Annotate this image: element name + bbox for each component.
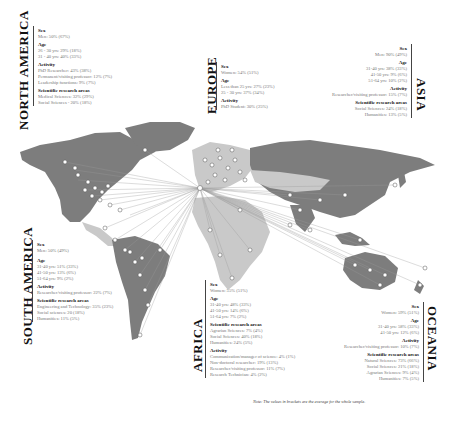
value: Humanities: 13% (5%) [296, 112, 407, 118]
value: 51-64 yrs: 9% (2%) [37, 276, 157, 282]
value: Men: 50% (67%) [38, 34, 148, 40]
value: Humanities: 11% (5%) [37, 316, 157, 322]
region-label-oceania: OCEANIA [424, 306, 440, 371]
footnote: Note: The values in brackets are the ave… [253, 399, 365, 404]
value: Researcher/visiting professor: 22% (7%) [37, 290, 157, 296]
value: Humanities: 7% (5%) [308, 376, 419, 382]
region-label-asia: ASIA [413, 78, 429, 111]
region-label-north-america: NORTH AMERICA [16, 10, 32, 130]
value: 41-50 yrs: 12% (6%) [308, 330, 419, 336]
land-europe [192, 142, 255, 192]
value: 31 - 40 yrs: 40% (33%) [38, 54, 148, 60]
value: Researcher/visiting professor: 15% (7%) [296, 92, 407, 98]
panel-oceania: Sex Women: 59% (51%) Age 31-40 yrs: 58% … [308, 302, 424, 382]
panel-south-america: Sex Men: 50% (49%) Age 31-40 yrs: 51% (3… [32, 240, 157, 322]
panel-asia: Sex Men: 90% (49%) Age 31-40 yrs: 38% (3… [296, 44, 412, 118]
value: Researcher/visiting professor: 10% (7%) [308, 344, 419, 350]
value: Men: 90% (49%) [296, 52, 407, 58]
region-label-africa: AFRICA [190, 318, 206, 372]
value: Men: 50% (49%) [37, 248, 157, 254]
panel-north-america: Sex Men: 50% (67%) Age 26 - 30 yrs: 29% … [33, 26, 148, 106]
land-se-asia [335, 232, 370, 246]
value: Women: 55% (51%) [210, 288, 335, 294]
value: Women: 59% (51%) [308, 310, 419, 316]
value: Leadership functions: 9% (7%) [38, 80, 148, 86]
value: Social Sciences - 20% (18%) [38, 100, 148, 106]
value: 51-64 yrs: 10% (2%) [296, 78, 407, 84]
